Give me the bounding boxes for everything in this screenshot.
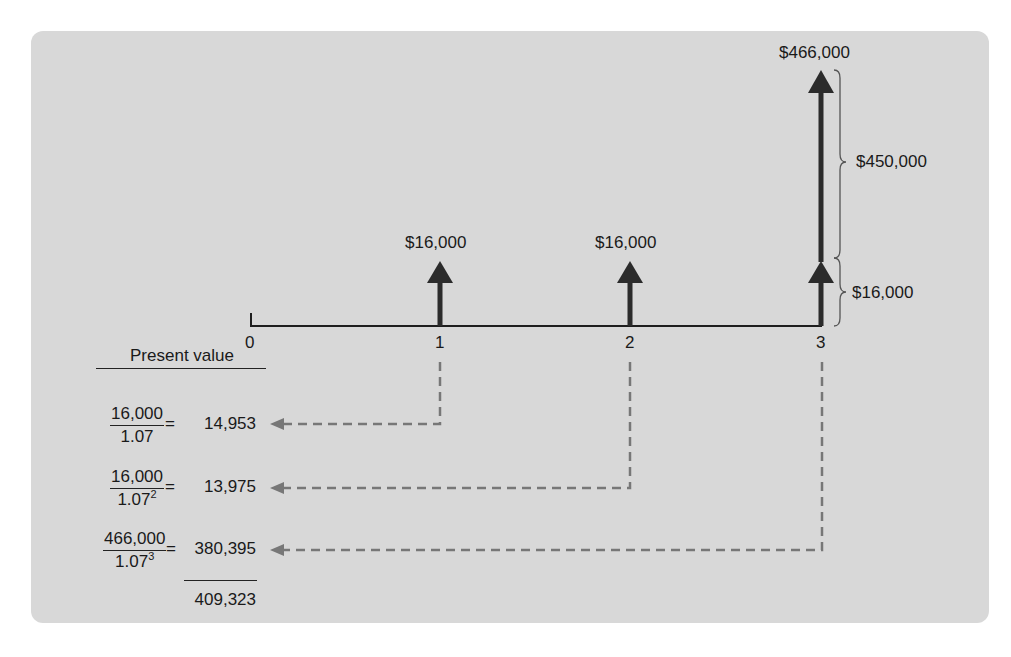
sum-rule <box>184 580 257 581</box>
equals-3: = <box>166 539 176 559</box>
denominator-2: 1.072 <box>117 489 156 510</box>
arrow-period-2 <box>617 261 643 326</box>
brace-16000 <box>834 258 846 326</box>
brace-450000 <box>834 70 846 258</box>
dashed-connector-3 <box>282 362 822 550</box>
cash-flow-label-2: $16,000 <box>595 233 656 253</box>
numerator-3: 466,000 <box>103 529 166 551</box>
fraction-1: 16,000 1.07 <box>110 404 164 447</box>
tick-label-1: 1 <box>435 333 444 353</box>
fraction-3: 466,000 1.073 <box>103 529 166 572</box>
tick-label-2: 2 <box>625 333 634 353</box>
cash-flow-label-3: $466,000 <box>779 43 850 63</box>
numerator-1: 16,000 <box>110 404 164 426</box>
header-rule <box>96 368 266 369</box>
pv-result-2: 13,975 <box>176 477 256 497</box>
pv-total: 409,323 <box>176 590 256 610</box>
arrowhead-left-icon-1 <box>270 418 284 430</box>
equals-2: = <box>165 477 175 497</box>
brace-label-16000: $16,000 <box>852 283 913 303</box>
cash-flow-label-1: $16,000 <box>405 233 466 253</box>
denominator-1: 1.07 <box>120 426 153 447</box>
arrow-period-3 <box>808 70 834 326</box>
equals-1: = <box>165 414 175 434</box>
denominator-3: 1.073 <box>115 551 154 572</box>
tick-label-3: 3 <box>816 333 825 353</box>
arrowhead-left-icon-2 <box>270 482 284 494</box>
dashed-connector-1 <box>282 362 440 424</box>
arrow-period-1 <box>427 261 453 326</box>
brace-label-450000: $450,000 <box>856 152 927 172</box>
pv-result-3: 380,395 <box>176 539 256 559</box>
fraction-2: 16,000 1.072 <box>110 467 164 510</box>
numerator-2: 16,000 <box>110 467 164 489</box>
present-value-header: Present value <box>108 346 256 366</box>
pv-result-1: 14,953 <box>176 414 256 434</box>
arrowhead-left-icon-3 <box>270 544 284 556</box>
